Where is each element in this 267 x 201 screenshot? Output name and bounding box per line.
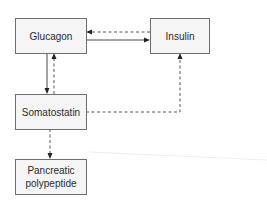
node-somatostatin: Somatostatin — [16, 95, 87, 130]
edge-line — [86, 58, 180, 112]
background-streak — [90, 152, 267, 160]
edge-glucagon-to-somatostatin — [45, 53, 50, 94]
node-glucagon: Glucagon — [16, 19, 87, 54]
node-label: Insulin — [166, 31, 195, 42]
edge-insulin-to-glucagon — [86, 30, 150, 35]
node-label: Glucagon — [30, 31, 73, 42]
edge-somatostatin-to-insulin — [86, 53, 183, 112]
edge-somatostatin-to-pancreatic-polypeptide — [48, 129, 53, 159]
node-label: Somatostatin — [22, 107, 80, 118]
node-pancreatic-polypeptide: Pancreatic polypeptide — [16, 160, 87, 195]
node-label-line-2: polypeptide — [25, 178, 77, 189]
edge-glucagon-to-insulin — [86, 38, 150, 43]
arrowhead-icon — [48, 153, 53, 159]
arrowhead-icon — [144, 38, 150, 43]
edge-somatostatin-to-glucagon — [52, 53, 57, 94]
hormone-interaction-diagram: Glucagon Insulin Somatostatin Pancreatic… — [0, 0, 267, 201]
node-label-line-1: Pancreatic — [27, 165, 74, 176]
arrowhead-icon — [45, 88, 50, 94]
node-insulin: Insulin — [151, 19, 210, 54]
